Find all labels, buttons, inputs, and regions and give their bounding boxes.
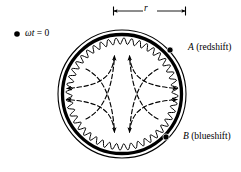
phase-label: ωt = 0 <box>25 29 49 39</box>
strain-arrow-down-left <box>86 69 115 132</box>
radius-label: r <box>144 4 148 14</box>
wavy-spring-ring <box>66 38 178 150</box>
point-b-description-text: (blueshift) <box>189 131 231 141</box>
figure-canvas <box>0 0 241 172</box>
phase-variable-text: ωt <box>25 28 34 38</box>
strain-arrow-group <box>67 56 177 132</box>
point-a-description-text: (redshift) <box>194 42 232 52</box>
strain-arrow-down-right <box>130 69 159 132</box>
radius-dimension-line <box>114 7 186 16</box>
point-b-label: B (blueshift) <box>183 132 231 142</box>
strain-arrow-up-left <box>86 56 115 119</box>
gravitational-wave-ring-figure: ωt = 0 r A (redshift) B (blueshift) <box>0 0 241 172</box>
phase-bullet-icon <box>14 31 20 37</box>
point-a-label: A (redshift) <box>188 43 232 53</box>
marker-point-b <box>163 134 169 140</box>
marker-point-a <box>167 47 173 53</box>
strain-arrow-up-right <box>130 56 159 119</box>
phase-value-text: = 0 <box>34 28 49 38</box>
